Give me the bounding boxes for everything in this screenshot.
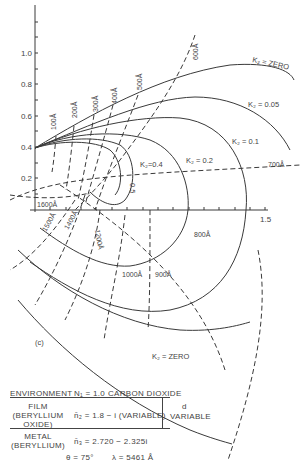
thickness-variable: VARIABLE xyxy=(170,412,211,421)
ellipsometry-chart: 1.0 0.8 0.6 0.4 0.2 1.5 K₂ = ZERO K₂ = 0… xyxy=(0,0,304,469)
curve-k2-0.1 xyxy=(30,118,246,312)
thickness-arrow xyxy=(162,398,163,428)
x-tick-1.5: 1.5 xyxy=(260,215,272,224)
film-label-2: (BERYLLIUM xyxy=(10,411,66,420)
metal-label-2: (BERYLLIUM) xyxy=(10,441,66,450)
label-1200A: 1200Å xyxy=(94,229,105,251)
label-400A: 400Å xyxy=(110,87,118,104)
y-tick-0.6: 0.6 xyxy=(21,112,33,121)
label-k2-zero-bottom: K₂ = ZERO xyxy=(152,352,189,361)
contour-400A xyxy=(85,105,113,205)
film-index: n̄₂ = 1.8 − i (VARIABLE) xyxy=(74,411,166,420)
y-tick-0.4: 0.4 xyxy=(21,143,33,152)
label-600A: 600Å xyxy=(191,43,199,60)
film-label: FILM (BERYLLIUM OXIDE) xyxy=(10,402,66,429)
label-k2-0.2: K₂ = 0.2 xyxy=(186,156,213,165)
divider-top xyxy=(10,397,170,398)
label-200A: 200Å xyxy=(70,101,78,118)
angle-of-incidence: θ = 75° xyxy=(66,453,94,462)
label-k2-0.5: 0.5 xyxy=(128,183,137,193)
y-tick-0.2: 0.2 xyxy=(21,174,33,183)
contour-800A xyxy=(60,185,225,370)
label-1000A: 1000Å xyxy=(122,270,143,278)
thickness-d: d xyxy=(182,402,187,411)
y-tick-0.8: 0.8 xyxy=(21,80,33,89)
y-tick-1.0: 1.0 xyxy=(21,49,33,58)
label-900A: 900Å xyxy=(155,270,172,278)
contour-1400A xyxy=(35,195,85,305)
label-100A: 100Å xyxy=(49,113,57,130)
label-300A: 300Å xyxy=(91,95,99,112)
film-label-1: FILM xyxy=(10,402,66,411)
curve-k2-zero-lower-1 xyxy=(18,250,250,330)
contour-outer xyxy=(228,250,262,460)
label-500A: 500Å xyxy=(135,73,143,90)
curve-k2-0.2 xyxy=(35,134,188,266)
contour-900A xyxy=(148,210,150,330)
contour-300A xyxy=(78,115,94,200)
contour-700A xyxy=(10,165,300,200)
metal-index: n̄₃ = 2.720 − 2.325i xyxy=(74,437,147,446)
label-800A: 800Å xyxy=(194,230,211,238)
label-700A: 700Å xyxy=(268,160,285,168)
metal-label-1: METAL xyxy=(10,432,66,441)
metal-label: METAL (BERYLLIUM) xyxy=(10,432,66,450)
contour-1600A xyxy=(10,193,90,198)
label-k2-0.05: K₂ = 0.05 xyxy=(248,100,279,109)
panel-label: (c) xyxy=(35,338,44,347)
label-1600A: 1600Å xyxy=(37,200,58,208)
divider-bottom xyxy=(10,428,170,429)
label-k2-0.1: K₂ = 0.1 xyxy=(232,137,259,146)
label-k2-zero-top: K₂ = ZERO xyxy=(252,55,291,72)
wavelength: λ = 5461 Å xyxy=(112,453,153,462)
curve-k2-0.5 xyxy=(35,142,121,195)
label-k2-0.4: K₂=0.4 xyxy=(140,160,163,169)
